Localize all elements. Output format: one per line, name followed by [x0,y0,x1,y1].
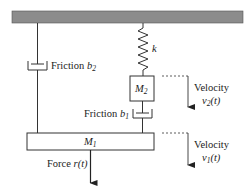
velocity-v2-label: Velocity [194,82,230,93]
velocity-v1-label: Velocity [194,139,230,150]
spring-k-label: k [152,43,157,54]
force-label: Force r(t) [47,158,88,170]
velocity-v1-symbol: v1(t) [202,152,221,165]
friction-b1-label: Friction b1 [84,108,129,121]
mechanical-system-diagram: Friction b2 k M2 Friction b1 M1 Force r(… [0,0,251,191]
ceiling [12,11,243,23]
friction-b1-dashpot [133,101,152,133]
velocity-v2-symbol: v2(t) [202,95,221,108]
friction-b2-label: Friction b2 [51,60,96,73]
spring-k [138,23,148,76]
friction-b2-dashpot [28,23,47,133]
